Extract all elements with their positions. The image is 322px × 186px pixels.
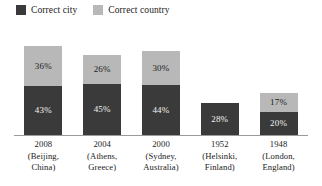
bar-segment-country[interactable]: 36% bbox=[24, 46, 62, 87]
bar-value-country: 17% bbox=[270, 98, 287, 107]
bar-value-city: 43% bbox=[35, 106, 52, 115]
bar-segment-city[interactable]: 20% bbox=[260, 112, 298, 135]
x-label-line: 2008 bbox=[14, 139, 73, 151]
x-label-line: Australia) bbox=[132, 162, 191, 174]
bar-value-city: 44% bbox=[152, 106, 169, 115]
bar-value-city: 45% bbox=[94, 105, 111, 114]
x-axis-line bbox=[14, 135, 308, 136]
bar-segment-city[interactable]: 43% bbox=[24, 86, 62, 135]
x-label-line: Finland) bbox=[190, 162, 249, 174]
bar-value-city: 20% bbox=[270, 119, 287, 128]
bar-column-1948: 17% 20% bbox=[249, 22, 308, 135]
x-axis-label-2004: 2004 (Athens, Greece) bbox=[73, 139, 132, 174]
bar-value-country: 36% bbox=[35, 62, 52, 71]
legend-swatch-country-icon bbox=[93, 5, 103, 15]
x-label-line: 1948 bbox=[249, 139, 308, 151]
chart-legend: Correct city Correct country bbox=[16, 3, 170, 17]
bar-segment-city[interactable]: 44% bbox=[142, 85, 180, 135]
x-label-line: (Sydney, bbox=[132, 151, 191, 163]
bar-column-2000: 30% 44% bbox=[132, 22, 191, 135]
x-label-line: England) bbox=[249, 162, 308, 174]
bar-value-country: 30% bbox=[152, 64, 169, 73]
x-label-line: Greece) bbox=[73, 162, 132, 174]
x-axis-label-1948: 1948 (London, England) bbox=[249, 139, 308, 174]
x-axis-label-2000: 2000 (Sydney, Australia) bbox=[132, 139, 191, 174]
bar-column-1952: 28% bbox=[190, 22, 249, 135]
stacked-bar[interactable]: 30% 44% bbox=[142, 51, 180, 135]
bar-group: 36% 43% 26% 45% bbox=[14, 22, 308, 135]
stacked-bar[interactable]: 36% 43% bbox=[24, 46, 62, 135]
plot-area: 36% 43% 26% 45% bbox=[14, 22, 308, 136]
legend-swatch-city-icon bbox=[16, 5, 26, 15]
x-label-line: 2004 bbox=[73, 139, 132, 151]
x-label-line: (Helsinki, bbox=[190, 151, 249, 163]
stacked-bar-chart: Correct city Correct country 36% 43% bbox=[0, 0, 322, 186]
x-label-line: (London, bbox=[249, 151, 308, 163]
x-label-line: (Beijing, bbox=[14, 151, 73, 163]
bar-column-2004: 26% 45% bbox=[73, 22, 132, 135]
x-label-line: 1952 bbox=[190, 139, 249, 151]
bar-segment-country[interactable]: 30% bbox=[142, 51, 180, 85]
legend-entry-correct-country[interactable]: Correct country bbox=[93, 5, 169, 15]
x-axis-label-1952: 1952 (Helsinki, Finland) bbox=[190, 139, 249, 174]
bar-value-city: 28% bbox=[211, 115, 228, 124]
x-label-line: (Athens, bbox=[73, 151, 132, 163]
legend-entry-correct-city[interactable]: Correct city bbox=[16, 5, 77, 15]
x-label-line: China) bbox=[14, 162, 73, 174]
bar-segment-city[interactable]: 28% bbox=[201, 103, 239, 135]
bar-segment-country[interactable]: 26% bbox=[83, 55, 121, 84]
bar-value-country: 26% bbox=[94, 65, 111, 74]
bar-segment-city[interactable]: 45% bbox=[83, 84, 121, 135]
stacked-bar[interactable]: 28% bbox=[201, 103, 239, 135]
x-label-line: 2000 bbox=[132, 139, 191, 151]
bar-segment-country[interactable]: 17% bbox=[260, 93, 298, 112]
x-axis-labels: 2008 (Beijing, China) 2004 (Athens, Gree… bbox=[14, 139, 308, 174]
legend-label-correct-city: Correct city bbox=[31, 5, 77, 15]
x-axis-label-2008: 2008 (Beijing, China) bbox=[14, 139, 73, 174]
bar-column-2008: 36% 43% bbox=[14, 22, 73, 135]
stacked-bar[interactable]: 26% 45% bbox=[83, 55, 121, 135]
legend-label-correct-country: Correct country bbox=[108, 5, 169, 15]
stacked-bar[interactable]: 17% 20% bbox=[260, 93, 298, 135]
